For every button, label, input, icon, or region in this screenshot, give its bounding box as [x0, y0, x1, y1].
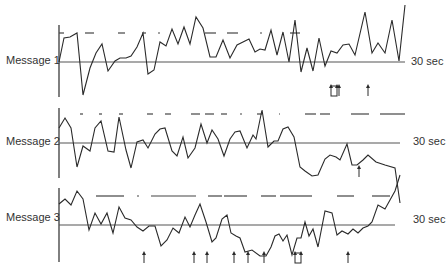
- up-arrow-icon: [192, 251, 196, 263]
- message-2-panel: [59, 108, 405, 203]
- message-1-30sec-label: 30 sec: [411, 55, 443, 67]
- up-arrow-icon: [366, 84, 370, 96]
- message-3-label: Message 3: [6, 211, 60, 223]
- message-2-30sec-label: 30 sec: [413, 135, 445, 147]
- up-arrow-icon: [142, 251, 146, 263]
- message-2-label: Message 2: [6, 135, 60, 147]
- message-3-30sec-label: 30 sec: [413, 213, 445, 225]
- waveform-line: [59, 110, 400, 203]
- double-arrow-icon: [293, 251, 303, 263]
- message-1-label: Message 1: [6, 54, 60, 66]
- double-arrow-icon: [329, 84, 339, 96]
- up-arrow-icon: [357, 165, 361, 177]
- message-timeline-diagram: [0, 0, 446, 269]
- up-arrow-icon: [232, 251, 236, 263]
- up-arrow-icon: [246, 251, 250, 263]
- up-arrow-icon: [346, 251, 350, 263]
- up-arrow-icon: [205, 251, 209, 263]
- waveform-line: [59, 5, 405, 95]
- message-1-panel: [59, 5, 405, 97]
- up-arrow-icon: [262, 251, 266, 263]
- waveform-line: [59, 175, 400, 256]
- message-3-panel: [59, 175, 400, 263]
